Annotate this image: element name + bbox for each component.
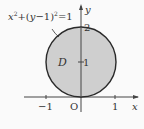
y-axis-label: y (84, 4, 91, 15)
region-label: D (57, 56, 67, 69)
x-tick-label-minus1: −1 (38, 101, 53, 112)
equation-label: x2+(y−1)2=1 (8, 10, 73, 22)
y-tick-label-1: 1 (83, 57, 89, 68)
x-tick-label-1: 1 (112, 101, 118, 112)
y-tick-label-2: 2 (84, 22, 90, 33)
diagram: x2+(y−1)2=1 y 2 1 D −1 O 1 x (0, 0, 144, 129)
x-axis-label: x (132, 101, 138, 112)
x-arrow-icon (133, 95, 139, 99)
equation-leader (52, 29, 59, 37)
origin-label: O (70, 101, 78, 112)
y-arrow-icon (79, 4, 83, 10)
plot: x2+(y−1)2=1 y 2 1 D −1 O 1 x (0, 0, 144, 129)
